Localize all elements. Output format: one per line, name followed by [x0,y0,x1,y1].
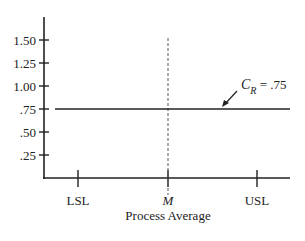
chart: .25.50.751.001.251.50 LSLMUSL CR = .75 P… [0,0,305,241]
x-tick-label: M [162,193,175,208]
x-tick-label: USL [245,193,270,208]
annotation-value: = .75 [256,77,286,92]
y-tick-label: 1.50 [13,33,36,48]
y-tick-label: .50 [20,125,36,140]
annotation-cr-label: CR = .75 [241,77,287,96]
axes [43,17,290,179]
y-tick-label: .25 [20,148,36,163]
x-tick-label: LSL [66,193,89,208]
series [55,38,290,195]
y-tick-label: .75 [20,102,36,117]
annotation-subscript: R [249,85,256,96]
x-axis-label: Process Average [125,208,211,223]
y-tick-label: 1.25 [13,56,36,71]
annotations: CR = .75 [222,77,287,107]
y-tick-label: 1.00 [13,79,36,94]
